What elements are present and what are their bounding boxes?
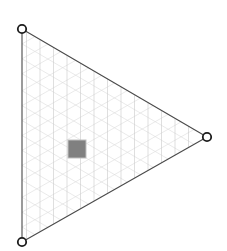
grid-diagonal-bottom-6: [22, 83, 115, 136]
center-marker-square-rect[interactable]: [68, 140, 86, 158]
grid-diagonal-bottom-12: [22, 37, 35, 44]
vertex-handle-right[interactable]: [203, 133, 211, 141]
drawing-canvas[interactable]: [0, 0, 227, 251]
triangle-mesh-scene[interactable]: [0, 0, 227, 251]
grid-diagonal-bottom-2: [22, 114, 168, 197]
grid-diagonal-top-9: [22, 180, 76, 211]
grid-diagonal-top-8: [22, 165, 89, 204]
grid-vertical-lines: [27, 32, 189, 240]
grid-diagonal-top-12: [22, 227, 35, 235]
grid-diagonal-bottom-9: [22, 60, 76, 90]
vertex-handle-top-left[interactable]: [18, 25, 26, 33]
vertex-handle-bottom-left[interactable]: [18, 238, 26, 246]
grid-diagonal-bottom-8: [22, 68, 89, 106]
center-marker-square[interactable]: [68, 140, 86, 158]
grid-diagonal-lines: [22, 37, 194, 235]
